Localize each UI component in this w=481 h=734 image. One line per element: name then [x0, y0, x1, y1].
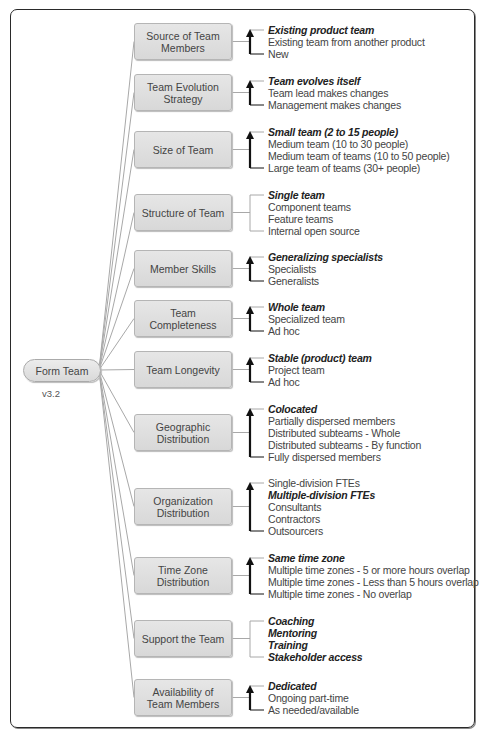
options-support-the-team: CoachingMentoringTrainingStakeholder acc…	[268, 615, 362, 663]
category-label: Geographic Distribution	[139, 421, 227, 445]
option: Feature teams	[268, 213, 360, 225]
option-selected: Mentoring	[268, 627, 362, 639]
options-source-of-team-members: Existing product teamExisting team from …	[268, 24, 425, 60]
option-selected: Colocated	[268, 403, 421, 415]
option: Medium team (10 to 30 people)	[268, 138, 450, 150]
category-label: Member Skills	[150, 263, 216, 275]
option-selected: Small team (2 to 15 people)	[268, 126, 450, 138]
category-label: Size of Team	[153, 144, 214, 156]
options-availability-of-team-members: DedicatedOngoing part-timeAs needed/avai…	[268, 680, 359, 716]
category-label: Team Evolution Strategy	[139, 81, 227, 105]
option: Specialists	[268, 263, 383, 275]
option: Component teams	[268, 201, 360, 213]
option: New	[268, 48, 425, 60]
option: Multiple time zones - No overlap	[268, 588, 479, 600]
option: Team lead makes changes	[268, 87, 401, 99]
option-selected: Whole team	[268, 301, 345, 313]
category-source-of-team-members: Source of Team Members	[134, 23, 232, 60]
option-selected: Coaching	[268, 615, 362, 627]
option: Large team of teams (30+ people)	[268, 162, 450, 174]
category-label: Team Longevity	[146, 364, 220, 376]
option-selected: Team evolves itself	[268, 75, 401, 87]
root-node-form-team: Form Team	[23, 359, 101, 382]
option: Project team	[268, 364, 372, 376]
option: Single-division FTEs	[268, 477, 375, 489]
option-selected: Existing product team	[268, 24, 425, 36]
category-label: Time Zone Distribution	[139, 564, 227, 588]
option: Multiple time zones - Less than 5 hours …	[268, 576, 479, 588]
category-team-longevity: Team Longevity	[134, 351, 232, 388]
option: Partially dispersed members	[268, 415, 421, 427]
category-label: Team Completeness	[139, 307, 227, 331]
option-selected: Training	[268, 639, 362, 651]
option: Contractors	[268, 513, 375, 525]
category-size-of-team: Size of Team	[134, 131, 232, 168]
option: Internal open source	[268, 225, 360, 237]
option: Outsourcers	[268, 525, 375, 537]
option: Generalists	[268, 275, 383, 287]
option-selected: Multiple-division FTEs	[268, 489, 375, 501]
option: Ad hoc	[268, 376, 372, 388]
option: Distributed subteams - By function	[268, 439, 421, 451]
category-support-the-team: Support the Team	[134, 620, 232, 657]
category-geographic-distribution: Geographic Distribution	[134, 414, 232, 451]
category-availability-of-team-members: Availability of Team Members	[134, 679, 232, 716]
option: Specialized team	[268, 313, 345, 325]
options-team-longevity: Stable (product) teamProject teamAd hoc	[268, 352, 372, 388]
category-label: Structure of Team	[142, 207, 225, 219]
option: Existing team from another product	[268, 36, 425, 48]
category-label: Support the Team	[142, 633, 225, 645]
option: Distributed subteams - Whole	[268, 427, 421, 439]
category-label: Organization Distribution	[139, 495, 227, 519]
options-member-skills: Generalizing specialistsSpecialistsGener…	[268, 251, 383, 287]
option: Multiple time zones - 5 or more hours ov…	[268, 564, 479, 576]
version-label: v3.2	[42, 388, 60, 399]
option: Management makes changes	[268, 99, 401, 111]
options-time-zone-distribution: Same time zoneMultiple time zones - 5 or…	[268, 552, 479, 600]
options-team-evolution-strategy: Team evolves itselfTeam lead makes chang…	[268, 75, 401, 111]
category-time-zone-distribution: Time Zone Distribution	[134, 557, 232, 594]
category-team-completeness: Team Completeness	[134, 300, 232, 337]
option: Fully dispersed members	[268, 451, 421, 463]
option: Ongoing part-time	[268, 692, 359, 704]
option-selected: Single team	[268, 189, 360, 201]
option-selected: Dedicated	[268, 680, 359, 692]
option-selected: Stable (product) team	[268, 352, 372, 364]
option-selected: Generalizing specialists	[268, 251, 383, 263]
category-structure-of-team: Structure of Team	[134, 194, 232, 231]
option: As needed/available	[268, 704, 359, 716]
option: Ad hoc	[268, 325, 345, 337]
options-organization-distribution: Single-division FTEsMultiple-division FT…	[268, 477, 375, 537]
option: Consultants	[268, 501, 375, 513]
options-structure-of-team: Single teamComponent teamsFeature teamsI…	[268, 189, 360, 237]
options-team-completeness: Whole teamSpecialized teamAd hoc	[268, 301, 345, 337]
options-geographic-distribution: ColocatedPartially dispersed membersDist…	[268, 403, 421, 463]
category-member-skills: Member Skills	[134, 250, 232, 287]
category-label: Availability of Team Members	[139, 686, 227, 710]
category-organization-distribution: Organization Distribution	[134, 488, 232, 525]
category-team-evolution-strategy: Team Evolution Strategy	[134, 74, 232, 111]
option-selected: Same time zone	[268, 552, 479, 564]
option-selected: Stakeholder access	[268, 651, 362, 663]
options-size-of-team: Small team (2 to 15 people)Medium team (…	[268, 126, 450, 174]
option: Medium team of teams (10 to 50 people)	[268, 150, 450, 162]
category-label: Source of Team Members	[139, 30, 227, 54]
